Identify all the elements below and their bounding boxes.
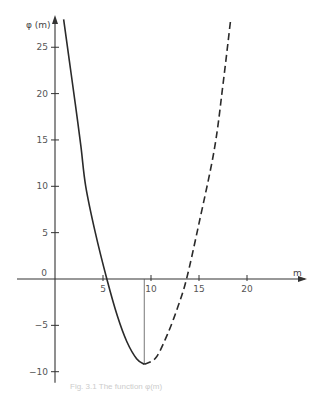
axis-ticks: −10−55101520255101520 — [29, 42, 253, 376]
figure-caption: Fig. 3.1 The function φ(m) — [70, 382, 162, 391]
x-tick-label: 10 — [145, 284, 157, 294]
y-tick-label: −10 — [29, 367, 48, 377]
chart-plot: −10−55101520255101520 φ (m) m 0 — [0, 0, 325, 395]
y-tick-label: −5 — [35, 320, 48, 330]
y-axis-label: φ (m) — [26, 20, 51, 30]
y-tick-label: 15 — [37, 135, 48, 145]
y-tick-label: 5 — [42, 228, 48, 238]
axis-labels: φ (m) m 0 — [26, 20, 302, 278]
axes — [17, 15, 307, 383]
y-tick-label: 10 — [37, 181, 49, 191]
solid-curve — [64, 19, 145, 364]
x-axis-label: m — [293, 268, 302, 278]
x-tick-label: 15 — [193, 284, 204, 294]
origin-label: 0 — [41, 268, 47, 278]
y-tick-label: 25 — [37, 42, 48, 52]
curves — [64, 19, 231, 364]
y-axis-arrow-icon — [52, 15, 58, 24]
y-tick-label: 20 — [37, 89, 49, 99]
x-tick-label: 5 — [100, 284, 106, 294]
x-tick-label: 20 — [241, 284, 253, 294]
dashed-curve — [144, 19, 230, 364]
